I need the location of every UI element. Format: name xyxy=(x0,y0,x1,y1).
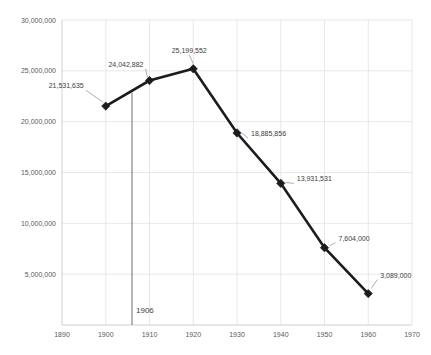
x-tick-label-2: 1910 xyxy=(142,331,158,338)
x-tick-label-3: 1920 xyxy=(185,331,201,338)
x-tick-label-0: 1890 xyxy=(54,331,70,338)
data-point-label-2: 25,199,552 xyxy=(172,47,207,54)
x-tick-label-5: 1940 xyxy=(273,331,289,338)
data-point-label-1: 24,042,882 xyxy=(108,61,143,68)
data-point-label-3: 18,885,856 xyxy=(251,130,286,137)
x-tick-label-1: 1900 xyxy=(98,331,114,338)
annotation-label: 1906 xyxy=(136,306,154,315)
data-point-label-0: 21,531,635 xyxy=(49,82,84,89)
x-tick-label-7: 1960 xyxy=(360,331,376,338)
y-tick-label-0: 5,000,000 xyxy=(25,271,56,278)
x-axis-tick-labels: 189019001910192019301940195019601970 xyxy=(54,331,420,338)
data-point-label-5: 7,604,000 xyxy=(339,235,370,242)
chart-canvas: 5,000,00010,000,00015,000,00020,000,0002… xyxy=(0,0,431,355)
x-tick-label-6: 1950 xyxy=(317,331,333,338)
x-tick-label-4: 1930 xyxy=(229,331,245,338)
y-tick-label-5: 30,000,000 xyxy=(21,17,56,24)
chart-background xyxy=(0,0,431,355)
line-chart: 5,000,00010,000,00015,000,00020,000,0002… xyxy=(0,0,431,355)
y-tick-label-3: 20,000,000 xyxy=(21,118,56,125)
x-tick-label-8: 1970 xyxy=(404,331,420,338)
y-tick-label-1: 10,000,000 xyxy=(21,220,56,227)
y-tick-label-2: 15,000,000 xyxy=(21,169,56,176)
data-point-label-4: 13,931,531 xyxy=(297,175,332,182)
y-tick-label-4: 25,000,000 xyxy=(21,67,56,74)
data-point-label-6: 3,089,000 xyxy=(380,272,411,279)
